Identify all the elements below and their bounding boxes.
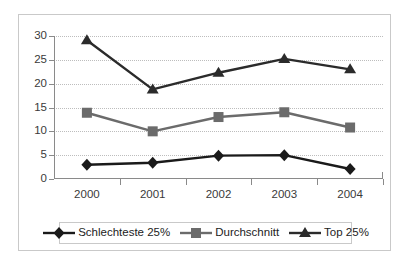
data-point-2-2000 (82, 108, 92, 118)
square-marker-icon-glyph (191, 228, 201, 238)
data-point-3-2000 (81, 34, 93, 44)
data-point-1-2001 (147, 157, 158, 169)
y-tick-mark-0 (49, 179, 54, 180)
x-tick-label-2000: 2000 (74, 189, 100, 201)
series-3 (81, 34, 356, 93)
series-1 (81, 149, 355, 175)
legend-entry-2: Durchschnitt (179, 226, 279, 240)
triangle-marker-icon (288, 226, 322, 240)
data-point-2-2002 (214, 112, 224, 122)
plot-area: 051015202530 20002001200220032004 (54, 36, 383, 179)
y-tick-label-15: 15 (34, 102, 47, 114)
x-tick-mark-4 (317, 179, 318, 185)
data-point-1-2003 (279, 149, 290, 161)
data-point-2-2003 (279, 107, 289, 117)
series-2 (82, 107, 355, 136)
legend-entry-1: Schlechteste 25% (42, 226, 170, 240)
data-point-1-2002 (213, 150, 224, 162)
data-point-3-2003 (278, 53, 290, 63)
x-tick-mark-1 (120, 179, 121, 185)
x-tick-label-2001: 2001 (140, 189, 166, 201)
data-point-2-2001 (148, 126, 158, 136)
y-tick-label-30: 30 (34, 30, 47, 42)
legend-label-2: Durchschnitt (215, 227, 279, 239)
diamond-marker-icon (42, 226, 76, 240)
chart-legend: Schlechteste 25%DurchschnittTop 25% (59, 222, 352, 244)
legend-entry-3: Top 25% (288, 226, 369, 240)
x-tick-mark-2 (186, 179, 187, 185)
y-tick-label-10: 10 (34, 126, 47, 138)
x-tick-label-2003: 2003 (272, 189, 298, 201)
square-marker-icon (179, 226, 213, 240)
legend-label-1: Schlechteste 25% (78, 227, 170, 239)
chart-frame: 051015202530 20002001200220032004 Schlec… (18, 14, 391, 251)
y-tick-label-25: 25 (34, 54, 47, 66)
legend-label-3: Top 25% (324, 227, 369, 239)
y-tick-label-20: 20 (34, 78, 47, 90)
data-point-1-2004 (345, 163, 356, 175)
y-tick-label-5: 5 (41, 149, 47, 161)
x-tick-mark-3 (251, 179, 252, 185)
x-tick-label-2002: 2002 (206, 189, 232, 201)
data-point-1-2000 (81, 159, 92, 171)
x-tick-mark-5 (383, 179, 384, 185)
y-tick-label-0: 0 (41, 173, 47, 185)
diamond-marker-icon-glyph (54, 227, 65, 239)
series-layer (54, 36, 383, 179)
x-tick-label-2004: 2004 (337, 189, 363, 201)
data-point-2-2004 (345, 123, 355, 133)
series-line-3 (87, 40, 350, 89)
